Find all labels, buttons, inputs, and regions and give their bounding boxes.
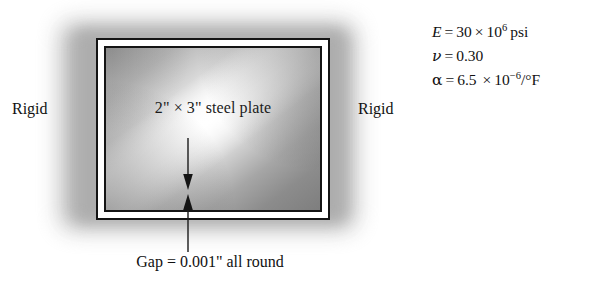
- gap-arrow-down: [183, 138, 193, 190]
- symbol-E: E: [432, 23, 441, 40]
- value-alpha-base: 10: [494, 71, 510, 88]
- value-E-base: 10: [486, 23, 502, 40]
- equals-nu: =: [444, 47, 453, 64]
- value-alpha-mantissa: 6.5: [457, 71, 476, 88]
- rigid-label-right: Rigid: [358, 100, 394, 118]
- times-E: ×: [475, 23, 484, 40]
- symbol-alpha: α: [432, 71, 442, 89]
- equals-E: =: [444, 23, 453, 40]
- value-alpha-exponent: −6: [510, 70, 521, 81]
- symbol-nu: ν: [432, 47, 441, 65]
- gap-arrow-up: [183, 194, 193, 252]
- value-E-mantissa: 30: [456, 23, 472, 40]
- diagram-canvas: 2" × 3" steel plate Rigid Rigid Gap = 0.…: [0, 0, 615, 300]
- value-E-exponent: 6: [502, 22, 507, 33]
- property-youngs-modulus: E=30×106psi: [432, 20, 540, 44]
- rigid-label-left: Rigid: [12, 100, 48, 118]
- plate-label: 2" × 3" steel plate: [104, 99, 322, 117]
- material-properties: E=30×106psi ν=0.30 α=6.5×10−6/°F: [432, 20, 540, 93]
- gap-caption: Gap = 0.001" all round: [0, 253, 420, 271]
- property-thermal-expansion: α=6.5×10−6/°F: [432, 68, 540, 93]
- value-nu: 0.30: [456, 47, 483, 64]
- property-poisson-ratio: ν=0.30: [432, 44, 540, 69]
- units-alpha: /°F: [521, 71, 540, 88]
- gap-annotation-arrows: [160, 130, 230, 260]
- units-E: psi: [510, 23, 528, 40]
- equals-alpha: =: [445, 71, 454, 88]
- times-alpha: ×: [483, 71, 492, 88]
